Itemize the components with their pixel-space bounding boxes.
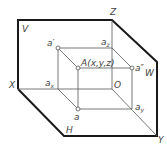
label-axis-y: Y <box>158 135 165 145</box>
label-A: A(x,y,z) <box>80 58 115 68</box>
point-A <box>76 66 80 70</box>
label-origin: O <box>114 80 121 90</box>
point-a-prime <box>56 46 60 50</box>
label-ax: ax <box>45 78 55 89</box>
label-ay: ay <box>135 102 145 114</box>
label-axis-z: Z <box>109 7 117 17</box>
label-a-double-prime: a″ <box>135 63 145 73</box>
outer-frame <box>18 20 157 136</box>
y-axis <box>112 89 157 136</box>
label-plane-v: V <box>22 24 29 34</box>
label-az: az <box>101 37 111 48</box>
label-plane-w: W <box>145 68 155 78</box>
label-a-prime: a′ <box>47 38 55 48</box>
projection-diagram: V W H Z X Y O a′ A(x,y,z) a″ a ax ay az <box>0 0 167 151</box>
axes <box>18 20 157 136</box>
point-a-double-prime <box>130 66 134 70</box>
points <box>56 46 134 111</box>
label-plane-h: H <box>66 125 73 135</box>
label-a: a <box>74 112 80 122</box>
point-a <box>76 107 80 111</box>
label-axis-x: X <box>8 80 16 90</box>
